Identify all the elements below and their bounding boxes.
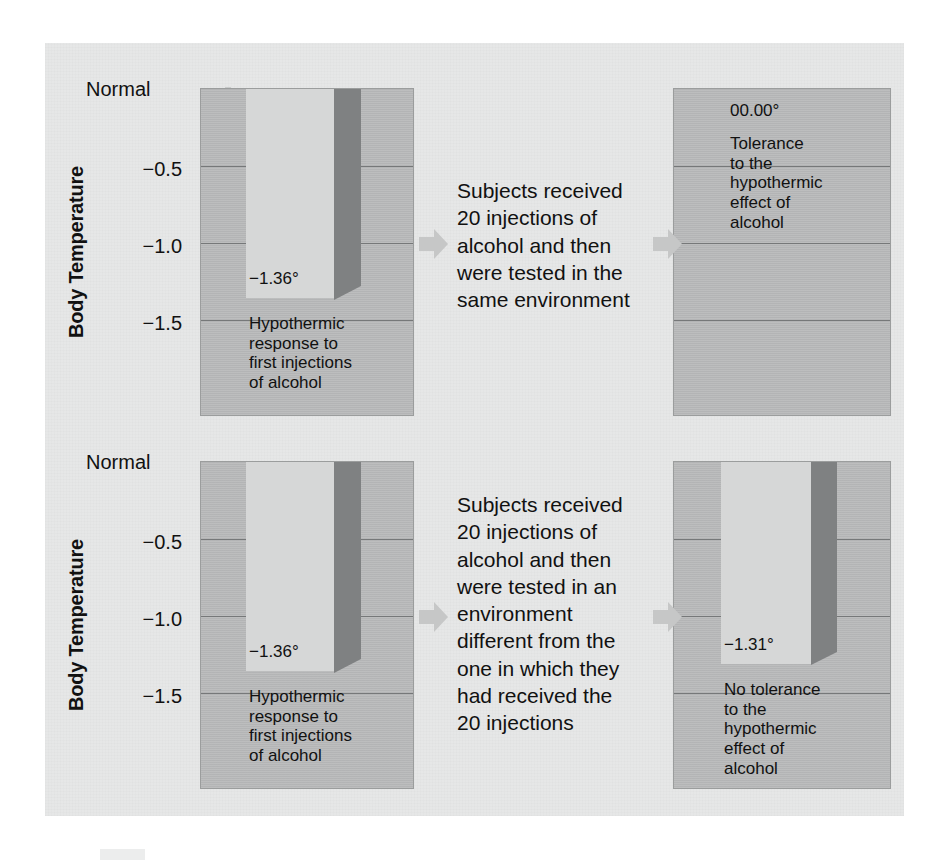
bar-face-bottom-right — [721, 462, 811, 664]
arrow-right-icon-top-left — [419, 228, 449, 260]
bar-side-tip-bottom-right — [811, 652, 837, 665]
bar-value-top-right: 00.00° — [730, 101, 779, 121]
narrative-bottom: Subjects received 20 injections of alcoh… — [457, 491, 623, 737]
caption-top-left: Hypothermic response to first injections… — [249, 314, 352, 393]
scan-artifact-bottom — [100, 849, 145, 860]
bar-side-bottom-left — [334, 462, 361, 659]
row-same-environment: Normal Body Temperature −0.5 −1.0 −1.5 −… — [45, 45, 904, 416]
axis-tick-0: −0.5 — [100, 531, 182, 554]
bar-side-top-left — [334, 89, 361, 286]
arrow-right-icon-top-right — [653, 228, 683, 260]
arrow-right-icon-bottom-left — [419, 601, 449, 633]
axis-label-normal: Normal — [86, 78, 150, 101]
plot-area-top-right: 00.00° Tolerance to the hypothermic effe… — [673, 88, 891, 416]
narrative-top: Subjects received 20 injections of alcoh… — [457, 177, 630, 313]
axis-tick-2: −1.5 — [100, 685, 182, 708]
arrow-right-icon-bottom-right — [653, 601, 683, 633]
caption-bottom-left: Hypothermic response to first injections… — [249, 687, 352, 766]
gridline-minus-1-0 — [674, 243, 890, 244]
axis-tick-1: −1.0 — [100, 235, 182, 258]
axis-tick-1: −1.0 — [100, 608, 182, 631]
figure-panel: Normal Body Temperature −0.5 −1.0 −1.5 −… — [45, 43, 904, 816]
row-different-environment: Normal Body Temperature −0.5 −1.0 −1.5 −… — [45, 418, 904, 789]
axis-tick-0: −0.5 — [100, 158, 182, 181]
bar-face-top-left — [246, 89, 334, 298]
caption-bottom-right: No tolerance to the hypothermic effect o… — [724, 680, 820, 779]
bar-value-bottom-right: −1.31° — [724, 635, 774, 655]
bar-face-bottom-left — [246, 462, 334, 671]
bar-side-bottom-right — [811, 462, 837, 652]
bar-side-tip-top-left — [334, 286, 361, 300]
bar-value-top-left: −1.36° — [249, 269, 299, 289]
caption-top-right: Tolerance to the hypothermic effect of a… — [730, 134, 823, 233]
bar-value-bottom-left: −1.36° — [249, 642, 299, 662]
gridline-minus-1-5 — [674, 320, 890, 321]
axis-tick-2: −1.5 — [100, 312, 182, 335]
bar-side-tip-bottom-left — [334, 659, 361, 673]
axis-title-body-temperature: Body Temperature — [65, 539, 88, 711]
plot-area-bottom-right: −1.31° No tolerance to the hypothermic e… — [673, 461, 891, 789]
axis-label-normal: Normal — [86, 451, 150, 474]
plot-area-bottom-left: −1.36° Hypothermic response to first inj… — [200, 461, 414, 789]
axis-title-body-temperature: Body Temperature — [65, 166, 88, 338]
plot-area-top-left: −1.36° Hypothermic response to first inj… — [200, 88, 414, 416]
